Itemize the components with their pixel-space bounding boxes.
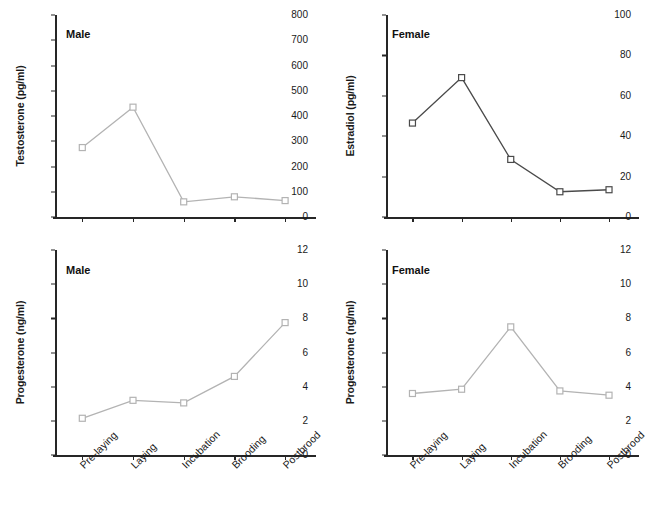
- x-axis-tick: [609, 217, 610, 222]
- y-axis-tick-label: 0: [625, 212, 631, 222]
- y-axis-tick: [382, 318, 386, 319]
- y-axis-tick-label: 500: [291, 86, 308, 96]
- y-axis-tick-label: 600: [291, 61, 308, 71]
- data-point-marker: [79, 145, 85, 151]
- data-point-marker: [231, 373, 237, 379]
- data-point-marker: [459, 386, 465, 392]
- y-axis-tick-label: 60: [620, 91, 631, 101]
- y-axis-tick-label: 700: [291, 35, 308, 45]
- y-axis-tick-label: 4: [625, 382, 631, 392]
- data-point-marker: [557, 189, 563, 195]
- y-axis-tick: [382, 250, 386, 251]
- data-point-marker: [459, 75, 465, 81]
- x-axis-tick: [133, 217, 134, 222]
- plot-area: 0100200300400500600700800: [55, 15, 315, 217]
- data-point-marker: [282, 198, 288, 204]
- y-axis-tick: [382, 420, 386, 421]
- y-axis-tick-label: 8: [625, 313, 631, 323]
- x-axis-tick: [184, 217, 185, 222]
- x-axis-tick: [285, 217, 286, 222]
- y-axis-tick: [51, 386, 55, 387]
- data-line: [82, 107, 285, 202]
- x-axis-tick: [462, 217, 463, 222]
- data-line: [412, 78, 609, 192]
- y-axis-tick: [51, 455, 55, 456]
- y-axis-tick: [51, 116, 55, 117]
- y-axis-tick-label: 6: [302, 348, 308, 358]
- series-line: [55, 250, 315, 455]
- x-axis-tick: [412, 217, 413, 222]
- y-axis-title: Testosterone (pg/ml): [14, 15, 30, 217]
- panel-female-estradiol: Estradiol (pg/ml) Female 020406080100: [330, 0, 643, 245]
- y-axis-tick-label: 4: [302, 382, 308, 392]
- y-axis-tick: [51, 15, 55, 16]
- y-axis-tick: [51, 217, 55, 218]
- y-axis-tick: [382, 55, 386, 56]
- data-point-marker: [282, 320, 288, 326]
- y-axis-tick: [51, 284, 55, 285]
- data-point-marker: [181, 199, 187, 205]
- data-point-marker: [130, 397, 136, 403]
- x-axis-tick: [560, 217, 561, 222]
- y-axis-tick-label: 12: [620, 245, 631, 255]
- y-axis-tick-label: 300: [291, 136, 308, 146]
- y-axis-tick: [51, 166, 55, 167]
- data-point-marker: [409, 120, 415, 126]
- data-point-marker: [130, 104, 136, 110]
- y-axis-title: Progesterone (ng/ml): [344, 250, 360, 455]
- y-axis-tick-label: 100: [614, 10, 631, 20]
- panel-male-testosterone: Testosterone (pg/ml) Male 01002003004005…: [0, 0, 330, 245]
- y-axis-tick-label: 20: [620, 172, 631, 182]
- y-axis-tick: [382, 136, 386, 137]
- data-point-marker: [557, 388, 563, 394]
- y-axis-tick-label: 80: [620, 50, 631, 60]
- data-point-marker: [181, 400, 187, 406]
- panel-female-progesterone: Progesterone (ng/ml) Female 024681012Pre…: [330, 238, 643, 505]
- data-point-marker: [231, 194, 237, 200]
- plot-area: 024681012Pre-layingLayingIncubationBrood…: [55, 250, 315, 455]
- y-axis-tick: [382, 284, 386, 285]
- y-axis-title: Progesterone (ng/ml): [14, 250, 30, 455]
- data-point-marker: [508, 324, 514, 330]
- y-axis-title: Estradiol (pg/ml): [344, 15, 360, 217]
- y-axis-tick-label: 2: [625, 416, 631, 426]
- y-axis-tick: [382, 217, 386, 218]
- data-point-marker: [409, 391, 415, 397]
- data-point-marker: [606, 187, 612, 193]
- y-axis-tick-label: 10: [297, 279, 308, 289]
- y-axis-tick: [51, 420, 55, 421]
- y-axis-tick-label: 800: [291, 10, 308, 20]
- data-point-marker: [79, 415, 85, 421]
- y-axis-tick-label: 12: [297, 245, 308, 255]
- data-line: [412, 327, 609, 395]
- y-axis-tick: [382, 386, 386, 387]
- x-axis-tick: [511, 217, 512, 222]
- y-axis-tick-label: 200: [291, 162, 308, 172]
- y-axis-tick-label: 40: [620, 131, 631, 141]
- plot-area: 024681012Pre-layingLayingIncubationBrood…: [386, 250, 638, 455]
- y-axis-tick: [51, 40, 55, 41]
- y-axis-tick-label: 100: [291, 187, 308, 197]
- y-axis-tick-label: 10: [620, 279, 631, 289]
- series-line: [386, 250, 638, 455]
- y-axis-tick-label: 2: [302, 416, 308, 426]
- y-axis-tick-label: 8: [302, 313, 308, 323]
- y-axis-tick: [51, 141, 55, 142]
- y-axis-tick: [382, 15, 386, 16]
- y-axis-tick-label: 400: [291, 111, 308, 121]
- y-axis-tick-label: 6: [625, 348, 631, 358]
- plot-area: 020406080100: [386, 15, 638, 217]
- x-axis-line: [53, 217, 316, 219]
- y-axis-tick: [51, 65, 55, 66]
- x-axis-tick: [82, 217, 83, 222]
- series-line: [55, 15, 315, 217]
- data-point-marker: [508, 156, 514, 162]
- y-axis-tick: [382, 95, 386, 96]
- panel-male-progesterone: Progesterone (ng/ml) Male 024681012Pre-l…: [0, 238, 330, 505]
- y-axis-tick: [382, 176, 386, 177]
- series-line: [386, 15, 638, 217]
- y-axis-tick: [51, 250, 55, 251]
- y-axis-tick: [51, 352, 55, 353]
- y-axis-tick: [51, 90, 55, 91]
